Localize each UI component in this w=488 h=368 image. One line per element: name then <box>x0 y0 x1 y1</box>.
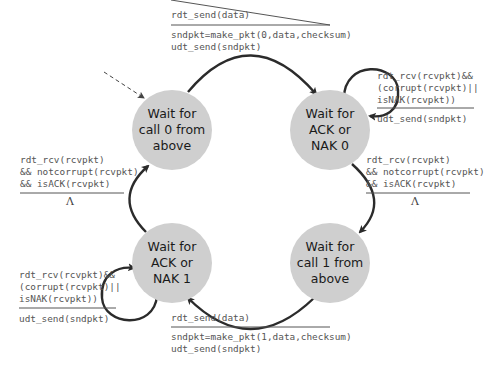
event-text: rdt_send(data) <box>171 312 250 323</box>
transition-label-top: rdt_send(data) sndpkt=make_pkt(0,data,ch… <box>171 0 352 52</box>
state-wait-ack-nak-1: Wait for ACK or NAK 1 <box>132 223 212 303</box>
event-text: rdt_rcv(rcvpkt) <box>20 154 105 165</box>
event-text: isNAK(rcvpkt)) <box>377 94 456 105</box>
state-label-line: Wait for <box>148 239 198 254</box>
transition-arc-top <box>188 55 316 94</box>
action-text: sndpkt=make_pkt(1,data,checksum) <box>171 331 352 342</box>
action-text: udt_send(sndpkt) <box>377 113 467 124</box>
event-text: && isACK(rcvpkt) <box>366 178 456 189</box>
state-wait-ack-nak-0: Wait for ACK or NAK 0 <box>290 90 370 170</box>
state-label-line: Wait for <box>306 106 356 121</box>
state-label-line: above <box>311 271 350 286</box>
event-text: && notcorrupt(rcvpkt) <box>366 166 485 177</box>
event-text: rdt_rcv(rcvpkt)&& <box>19 269 115 280</box>
transition-label-right: rdt_rcv(rcvpkt) && notcorrupt(rcvpkt) &&… <box>366 154 485 208</box>
action-text: udt_send(sndpkt) <box>19 313 109 324</box>
state-label-line: NAK 1 <box>153 271 191 286</box>
state-wait-call-1: Wait for call 1 from above <box>290 223 370 303</box>
transition-label-left-loop: rdt_rcv(rcvpkt)&& (corrupt(rcvpkt)|| isN… <box>19 269 121 324</box>
event-text: && isACK(rcvpkt) <box>20 178 110 189</box>
state-wait-call-0: Wait for call 0 from above <box>132 90 212 170</box>
state-label-line: above <box>153 138 192 153</box>
event-text: (corrupt(rcvpkt)|| <box>19 281 121 292</box>
action-text: sndpkt=make_pkt(0,data,checksum) <box>171 29 352 40</box>
state-label-line: ACK or <box>309 122 352 137</box>
state-label-line: ACK or <box>151 255 194 270</box>
event-text: rdt_rcv(rcvpkt)&& <box>377 70 473 81</box>
event-text: rdt_rcv(rcvpkt) <box>366 154 451 165</box>
fsm-diagram: Wait for call 0 from above Wait for ACK … <box>0 0 488 368</box>
action-text: udt_send(sndpkt) <box>171 343 261 354</box>
action-text: udt_send(sndpkt) <box>171 41 261 52</box>
lambda-action: Λ <box>65 195 75 208</box>
state-label-line: Wait for <box>306 239 356 254</box>
state-label-line: call 0 from <box>139 122 205 137</box>
transition-label-bottom: rdt_send(data) sndpkt=make_pkt(1,data,ch… <box>171 312 352 354</box>
transition-label-right-loop: rdt_rcv(rcvpkt)&& (corrupt(rcvpkt)|| isN… <box>377 70 479 124</box>
state-label-line: NAK 0 <box>311 138 349 153</box>
state-label-line: Wait for <box>148 106 198 121</box>
event-text: (corrupt(rcvpkt)|| <box>377 82 479 93</box>
lambda-action: Λ <box>410 195 420 208</box>
state-label-line: call 1 from <box>297 255 363 270</box>
event-text: isNAK(rcvpkt)) <box>19 293 98 304</box>
transition-label-left: rdt_rcv(rcvpkt) && notcorrupt(rcvpkt) &&… <box>20 154 139 208</box>
event-text: && notcorrupt(rcvpkt) <box>20 166 139 177</box>
initial-state-arrow <box>104 72 144 98</box>
